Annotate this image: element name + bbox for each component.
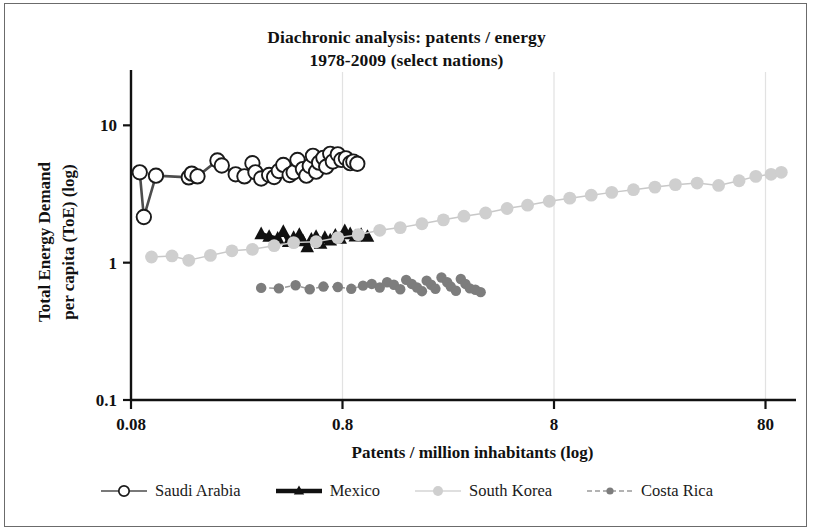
legend-key-south-korea-icon — [414, 483, 462, 499]
legend-key-saudi-arabia-icon — [100, 483, 148, 499]
data-point — [373, 224, 386, 237]
series-costa-rica — [256, 272, 486, 297]
data-point — [775, 166, 788, 179]
data-point — [563, 192, 576, 205]
data-point — [521, 199, 534, 212]
data-point — [331, 231, 344, 244]
data-point — [290, 280, 300, 290]
data-point — [605, 186, 618, 199]
data-point — [190, 169, 204, 183]
data-point — [627, 183, 640, 196]
data-point — [246, 243, 259, 256]
data-point — [458, 210, 471, 223]
data-point — [226, 244, 239, 257]
legend-item-saudi-arabia[interactable]: Saudi Arabia — [100, 481, 241, 501]
legend-label-south-korea: South Korea — [469, 481, 552, 501]
legend-label-mexico: Mexico — [330, 481, 380, 501]
data-point — [215, 158, 229, 172]
legend-key-costa-rica-icon — [586, 483, 634, 499]
data-point — [305, 284, 315, 294]
data-point — [451, 286, 461, 296]
y-tick-label: 10 — [100, 116, 117, 135]
gridlines — [343, 72, 766, 400]
y-tick-label: 0.1 — [96, 391, 117, 410]
chart-figure: Diachronic analysis: patents / energy 19… — [0, 0, 813, 532]
x-axis-title: Patents / million inhabitants (log) — [352, 443, 594, 462]
legend-label-costa-rica: Costa Rica — [641, 481, 713, 501]
data-point — [691, 177, 704, 190]
data-point — [145, 251, 158, 264]
data-point — [182, 254, 195, 267]
data-point — [394, 221, 407, 234]
data-point — [256, 283, 266, 293]
axis-lines — [131, 70, 796, 400]
data-point — [277, 224, 291, 237]
x-tick-label: 0.08 — [116, 415, 146, 434]
data-point — [395, 284, 405, 294]
data-point — [712, 179, 725, 192]
legend-item-mexico[interactable]: Mexico — [275, 481, 380, 501]
data-point — [585, 189, 598, 202]
y-axis-title-line2: per capita (ToE) (log) — [59, 164, 78, 319]
data-point — [358, 280, 368, 290]
x-tick-label: 80 — [757, 415, 774, 434]
data-point — [649, 181, 662, 194]
data-point — [479, 207, 492, 220]
data-point — [268, 239, 281, 252]
data-point — [274, 283, 284, 293]
data-point — [543, 195, 556, 208]
data-point — [137, 210, 151, 224]
data-point — [133, 165, 147, 179]
y-axis-title-line1: Total Energy Demand — [35, 161, 54, 321]
series-saudi-arabia — [133, 147, 365, 225]
data-point — [350, 157, 364, 171]
legend-key-mexico-icon — [275, 483, 323, 499]
data-point — [430, 284, 440, 294]
data-point — [287, 236, 300, 249]
y-tick-label: 1 — [109, 254, 118, 273]
axis-tick-labels: 0.11100.080.8880 — [96, 116, 774, 434]
data-point — [669, 178, 682, 191]
legend-label-saudi-arabia: Saudi Arabia — [155, 481, 241, 501]
data-point — [417, 286, 427, 296]
legend-item-costa-rica[interactable]: Costa Rica — [586, 481, 713, 501]
data-point — [437, 213, 450, 226]
data-point — [749, 170, 762, 183]
data-point — [333, 282, 343, 292]
data-point — [475, 287, 485, 297]
data-point — [416, 217, 429, 230]
data-point — [204, 249, 217, 262]
legend-item-south-korea[interactable]: South Korea — [414, 481, 552, 501]
data-point — [346, 284, 356, 294]
data-point — [352, 228, 365, 241]
data-series-layer — [133, 147, 788, 298]
data-point — [310, 235, 323, 248]
chart-legend: Saudi Arabia Mexico South Korea Costa Ri… — [0, 481, 813, 501]
x-tick-label: 8 — [550, 415, 559, 434]
chart-plot-area: 0.11100.080.8880 Patents / million inhab… — [0, 0, 813, 532]
data-point — [149, 168, 163, 182]
data-point — [733, 174, 746, 187]
data-point — [318, 281, 328, 291]
data-point — [166, 250, 179, 263]
x-tick-label: 0.8 — [332, 415, 353, 434]
data-point — [501, 202, 514, 215]
